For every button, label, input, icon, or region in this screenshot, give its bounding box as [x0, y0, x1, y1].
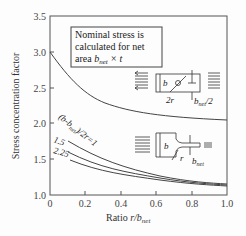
- y-axis: 3.5 3.0 2.5 2.0 1.5 1.0: [34, 11, 55, 201]
- x-axis: 0 0.2 0.4 0.6 0.8 1.0: [48, 191, 234, 209]
- y-tick-label: 3.5: [34, 11, 47, 22]
- y-tick-label: 1.5: [34, 154, 47, 165]
- hole-2r-label: 2r: [166, 95, 175, 105]
- x-tick-label: 0.2: [79, 198, 92, 209]
- x-tick-label: 0.8: [186, 198, 199, 209]
- curve-label-2.25: 2.25: [52, 145, 70, 159]
- y-tick-label: 2.0: [34, 118, 47, 129]
- x-tick-label: 0.4: [115, 198, 128, 209]
- x-tick-label: 0: [48, 198, 53, 209]
- fillet-curve-1.5: [68, 152, 227, 185]
- x-tick-label: 0.6: [150, 198, 163, 209]
- y-tick-label: 1.0: [34, 190, 47, 201]
- y-tick-label: 2.5: [34, 83, 47, 94]
- note-line-2: calculated for net: [75, 41, 145, 52]
- hole-bnet-label: bnet/2: [194, 96, 213, 107]
- y-axis-label: Stress concentration factor: [10, 52, 21, 159]
- stress-concentration-chart: 3.5 3.0 2.5 2.0 1.5 1.0 0 0.2 0.4 0.6 0.…: [0, 0, 246, 236]
- fillet-r-label: r: [180, 153, 184, 163]
- fillet-b-label: b: [164, 141, 169, 151]
- note-line-1: Nominal stress is: [75, 29, 144, 40]
- fillet-bnet-label: bnet: [192, 156, 204, 167]
- hole-b-label: b: [163, 78, 168, 88]
- x-tick-label: 1.0: [221, 198, 234, 209]
- fillet-plate-diagram: [135, 133, 212, 160]
- y-tick-label: 3.0: [34, 47, 47, 58]
- x-axis-label: Ratio r/bnet: [106, 212, 151, 225]
